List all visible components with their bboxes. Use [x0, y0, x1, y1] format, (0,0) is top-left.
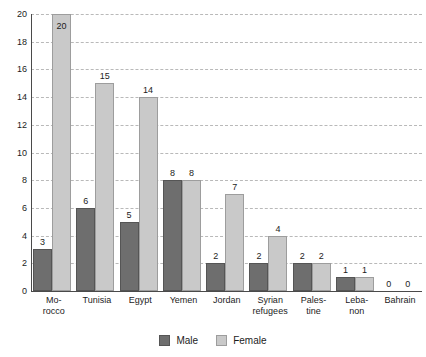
y-tick-label-12: 12 [3, 121, 27, 130]
bar-value-label: 8 [182, 169, 201, 178]
bar-male[interactable] [293, 263, 312, 291]
bar-female[interactable] [268, 236, 287, 291]
x-category-label-line: Egypt [119, 295, 162, 306]
bar-female[interactable] [312, 263, 331, 291]
x-axis-baseline [31, 291, 422, 292]
bar-value-label: 7 [225, 183, 244, 192]
bar-slot-female[interactable]: 15 [95, 14, 114, 291]
bar-female[interactable] [182, 180, 201, 291]
bar-slot-female[interactable]: 1 [355, 14, 374, 291]
bar-value-label: 1 [336, 266, 355, 275]
bar-slot-male[interactable]: 8 [163, 14, 182, 291]
bar-group: 514 [119, 14, 162, 291]
bar-male[interactable] [336, 277, 355, 291]
bar-slot-female[interactable]: 7 [225, 14, 244, 291]
legend-swatch-icon [216, 335, 227, 346]
y-tick-label-4: 4 [3, 232, 27, 241]
x-category-label: Egypt [119, 295, 162, 316]
x-category-label: Yemen [162, 295, 205, 316]
x-category-label-line: Mo- [32, 295, 75, 306]
bar-male[interactable] [33, 249, 52, 291]
bar-female[interactable] [225, 194, 244, 291]
bar-pair: 88 [162, 14, 205, 291]
x-category-label: Pales-tine [292, 295, 335, 316]
bar-male[interactable] [120, 222, 139, 291]
y-tick-label-2: 2 [3, 259, 27, 268]
chart-legend: MaleFemale [0, 335, 426, 346]
bar-slot-female[interactable]: 20 [52, 14, 71, 291]
bar-slot-female[interactable]: 14 [139, 14, 158, 291]
bar-slot-female[interactable]: 8 [182, 14, 201, 291]
y-axis-tick-labels: 20181614121086420 [0, 0, 27, 357]
x-category-label: Bahrain [378, 295, 421, 316]
x-category-label-line: tine [292, 306, 335, 317]
bar-slot-female[interactable]: 0 [398, 14, 417, 291]
bar-male[interactable] [163, 180, 182, 291]
bar-group: 00 [378, 14, 421, 291]
legend-label: Female [233, 336, 266, 346]
bar-slot-male[interactable]: 2 [293, 14, 312, 291]
bar-slot-female[interactable]: 4 [268, 14, 287, 291]
bar-male[interactable] [249, 263, 268, 291]
bar-chart: 20181614121086420 320615514882724221100 … [0, 0, 426, 357]
x-category-label-line: Pales- [292, 295, 335, 306]
bar-group: 24 [248, 14, 291, 291]
legend-item-male[interactable]: Male [159, 335, 198, 346]
bar-value-label: 6 [76, 197, 95, 206]
bar-value-label: 2 [206, 252, 225, 261]
x-category-label-line: Bahrain [378, 295, 421, 306]
y-tick-label-8: 8 [3, 176, 27, 185]
bar-value-label: 8 [163, 169, 182, 178]
bar-slot-male[interactable]: 3 [33, 14, 52, 291]
y-tick-label-16: 16 [3, 65, 27, 74]
bar-female[interactable] [52, 14, 71, 291]
y-tick-label-10: 10 [3, 149, 27, 158]
bar-value-label: 2 [293, 252, 312, 261]
bar-female[interactable] [139, 97, 158, 291]
y-tick-label-6: 6 [3, 204, 27, 213]
x-category-label: Jordan [205, 295, 248, 316]
bar-slot-female[interactable]: 2 [312, 14, 331, 291]
bar-slot-male[interactable]: 0 [379, 14, 398, 291]
legend-item-female[interactable]: Female [216, 335, 266, 346]
bar-slot-male[interactable]: 6 [76, 14, 95, 291]
bar-male[interactable] [76, 208, 95, 291]
bar-female[interactable] [95, 83, 114, 291]
bar-group: 11 [335, 14, 378, 291]
x-category-label-line: Jordan [205, 295, 248, 306]
bar-value-label: 4 [268, 225, 287, 234]
bar-pair: 615 [75, 14, 118, 291]
y-tick-label-0: 0 [3, 287, 27, 296]
bar-slot-male[interactable]: 1 [336, 14, 355, 291]
x-category-label-line: refugees [248, 306, 291, 317]
bar-female[interactable] [355, 277, 374, 291]
bar-pair: 11 [335, 14, 378, 291]
bar-value-label: 20 [52, 22, 71, 31]
x-category-label-line: Yemen [162, 295, 205, 306]
bar-value-label: 0 [398, 280, 417, 289]
bar-slot-male[interactable]: 2 [206, 14, 225, 291]
bar-slot-male[interactable]: 5 [120, 14, 139, 291]
x-axis-category-labels: Mo-roccoTunisiaEgyptYemenJordanSyrianref… [32, 295, 422, 316]
bar-group: 22 [292, 14, 335, 291]
bar-pair: 00 [378, 14, 421, 291]
bar-male[interactable] [206, 263, 225, 291]
bar-value-label: 15 [95, 72, 114, 81]
bar-group: 615 [75, 14, 118, 291]
legend-label: Male [176, 336, 198, 346]
bar-value-label: 0 [379, 280, 398, 289]
bar-pair: 320 [32, 14, 75, 291]
bar-group: 27 [205, 14, 248, 291]
x-category-label-line: Tunisia [75, 295, 118, 306]
legend-swatch-icon [159, 335, 170, 346]
bar-slot-male[interactable]: 2 [249, 14, 268, 291]
bar-value-label: 3 [33, 238, 52, 247]
bar-pair: 24 [248, 14, 291, 291]
y-tick-label-14: 14 [3, 93, 27, 102]
bar-pair: 514 [119, 14, 162, 291]
bar-value-label: 2 [249, 252, 268, 261]
x-category-label: Mo-rocco [32, 295, 75, 316]
x-category-label: Tunisia [75, 295, 118, 316]
bar-group: 88 [162, 14, 205, 291]
x-category-label-line: Leba- [335, 295, 378, 306]
